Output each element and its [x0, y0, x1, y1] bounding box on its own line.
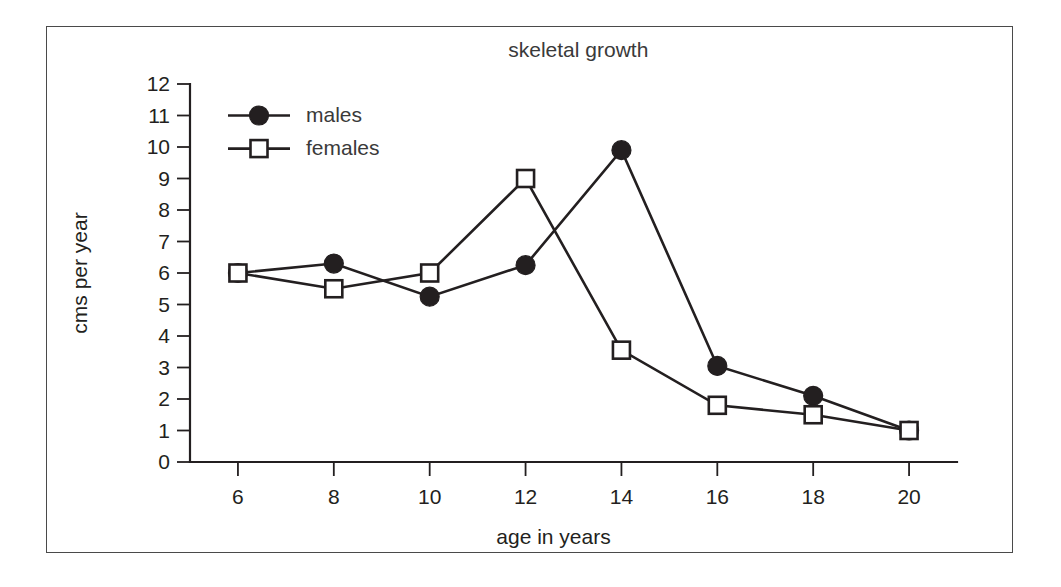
series-females-point-8-marker-square	[325, 280, 342, 297]
y-axis-tick-label: 8	[158, 198, 170, 221]
series-females-point-12-marker-square	[517, 170, 534, 187]
series-females-point-6-marker-square	[229, 265, 246, 282]
y-axis-tick-label: 0	[158, 450, 170, 473]
series-males-point-12-marker-circle	[516, 256, 535, 275]
y-axis-tick-label: 6	[158, 261, 170, 284]
series-males-point-10-marker-circle	[420, 287, 439, 306]
y-axis-tick-label: 10	[147, 135, 170, 158]
x-axis-tick-label: 16	[706, 485, 729, 508]
series-males-point-18-marker-circle	[804, 386, 823, 405]
y-axis-tick-label: 1	[158, 419, 170, 442]
legend-label-females: females	[306, 136, 380, 159]
x-axis-tick-label: 20	[897, 485, 920, 508]
figure-root: skeletal growth0123456789101112cms per y…	[0, 0, 1061, 587]
legend-females-marker-square	[251, 140, 268, 157]
y-axis-tick-label: 5	[158, 293, 170, 316]
x-axis-title: age in years	[496, 525, 610, 548]
series-males-point-16-marker-circle	[708, 356, 727, 375]
y-axis-tick-label: 7	[158, 230, 170, 253]
y-axis-tick-label: 12	[147, 72, 170, 95]
y-axis-tick-label: 9	[158, 167, 170, 190]
series-males-point-14-marker-circle	[612, 141, 631, 160]
x-axis-tick-label: 6	[232, 485, 244, 508]
series-females-point-18-marker-square	[805, 406, 822, 423]
series-females-point-20-marker-square	[901, 422, 918, 439]
y-axis-tick-label: 11	[148, 104, 170, 127]
series-females-point-14-marker-square	[613, 342, 630, 359]
skeletal-growth-line-chart: skeletal growth0123456789101112cms per y…	[47, 27, 1011, 551]
y-axis-tick-label: 3	[158, 356, 170, 379]
series-females-point-10-marker-square	[421, 265, 438, 282]
y-axis-tick-label: 4	[158, 324, 170, 347]
x-axis-tick-label: 12	[514, 485, 537, 508]
x-axis-tick-label: 18	[802, 485, 825, 508]
chart-title: skeletal growth	[508, 38, 648, 61]
x-axis-tick-label: 14	[610, 485, 634, 508]
y-axis-title: cms per year	[68, 212, 91, 333]
chart-frame: skeletal growth0123456789101112cms per y…	[46, 26, 1013, 553]
x-axis-tick-label: 8	[328, 485, 340, 508]
legend-label-males: males	[306, 103, 362, 126]
legend-males-marker-circle	[250, 106, 269, 125]
x-axis-tick-label: 10	[418, 485, 441, 508]
series-females-point-16-marker-square	[709, 397, 726, 414]
y-axis-tick-label: 2	[158, 387, 170, 410]
series-males-point-8-marker-circle	[324, 254, 343, 273]
